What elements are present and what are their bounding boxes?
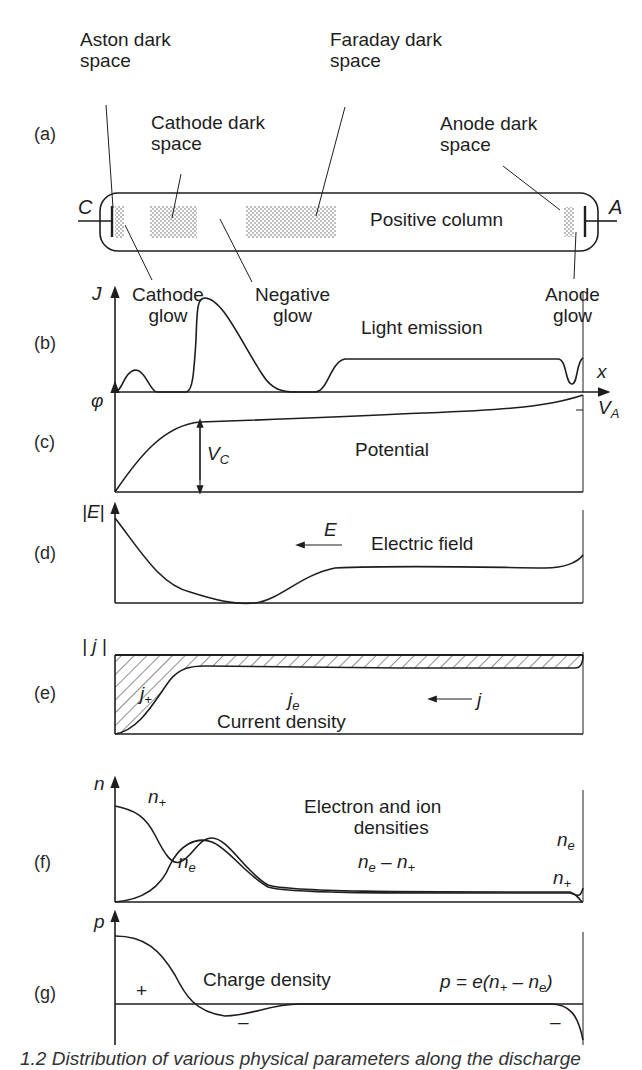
aston-dark-space-region (115, 206, 124, 238)
n-diff-label: ne – n+ (358, 852, 415, 875)
panel-b-x-axis-label: x (597, 362, 607, 383)
anode-symbol: A (609, 196, 622, 218)
current-density-title: Current density (217, 712, 346, 733)
faraday-dark-space-label: Faraday darkspace (330, 30, 442, 72)
panel-d-axes (115, 508, 583, 603)
electric-field-curve (115, 518, 583, 603)
light-emission-title: Light emission (361, 318, 482, 339)
positive-column-label: Positive column (370, 210, 503, 231)
panel-c-axes (115, 387, 583, 492)
panel-f-label: (f) (34, 852, 51, 873)
n-e-label-right: ne (557, 830, 575, 853)
panel-e-y-axis-label: | j | (82, 636, 107, 657)
aston-dark-space-label: Aston darkspace (80, 30, 171, 72)
charge-density-formula: p = e(n+ – ne) (440, 972, 553, 995)
anode-dark-space-label: Anode darkspace (440, 114, 537, 156)
j-plus-label: j+ (140, 684, 152, 707)
faraday-dark-space-region (246, 206, 336, 238)
electric-field-title: Electric field (371, 534, 473, 555)
positive-charge-sign: + (136, 981, 147, 1002)
panel-c-y-axis-label: φ (91, 391, 103, 412)
cathode-symbol: C (78, 196, 92, 218)
n-plus-label-right: n+ (553, 868, 571, 891)
vc-label: VC (207, 444, 229, 467)
panel-b-label: (b) (34, 333, 56, 354)
panel-a-label: (a) (34, 124, 56, 145)
panel-d-y-axis-label: |E| (82, 502, 105, 523)
field-arrow-label: E (324, 520, 337, 541)
n-plus-label-left: n+ (148, 787, 166, 810)
anode-glow-label: Anodeglow (545, 285, 600, 327)
panel-b-y-axis-label: J (92, 284, 102, 305)
charge-density-title: Charge density (203, 970, 331, 991)
j-e-label: je (288, 690, 299, 713)
negative-glow-label: Negativeglow (255, 285, 330, 327)
panel-d-label: (d) (34, 543, 56, 564)
potential-title: Potential (355, 440, 429, 461)
cathode-dark-space-label: Cathode darkspace (151, 113, 265, 155)
va-label: VA (598, 398, 619, 421)
panel-c-label: (c) (34, 432, 55, 453)
cathode-glow-label: Cathodeglow (132, 285, 204, 327)
panel-g-y-axis-label: p (94, 912, 105, 933)
n-e-label-left: ne (178, 852, 196, 875)
potential-curve (115, 395, 583, 492)
current-arrow-label: j (477, 690, 481, 711)
anode-dark-space-region (564, 207, 574, 237)
densities-title: Electron and iondensities (304, 797, 441, 839)
figure-caption: 1.2 Distribution of various physical par… (20, 1048, 581, 1070)
panel-g-label: (g) (34, 983, 56, 1004)
panel-e-label: (e) (34, 683, 56, 704)
negative-charge-sign-left: – (238, 1012, 249, 1033)
negative-charge-sign-right: – (550, 1012, 561, 1033)
panel-f-y-axis-label: n (94, 774, 105, 795)
